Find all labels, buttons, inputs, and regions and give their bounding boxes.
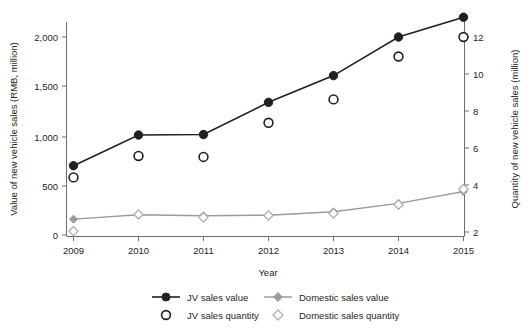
data-point[interactable] (264, 98, 272, 106)
y-axis-right-title: Quantity of new vehicle sales (million) (509, 50, 520, 209)
y-ticklabel-1500: 1,500 (34, 81, 58, 92)
x-ticklabel-2013: 2013 (323, 245, 344, 256)
data-point[interactable] (394, 52, 403, 61)
series-line (74, 17, 464, 166)
data-point[interactable] (264, 118, 273, 127)
data-point[interactable] (264, 211, 273, 220)
x-axis: 2009 2010 2011 2012 2013 2014 2015 Year (63, 237, 474, 279)
data-point[interactable] (69, 173, 78, 182)
data-point[interactable] (459, 33, 468, 42)
data-point[interactable] (459, 13, 467, 21)
legend-item-domestic-sales-quantity[interactable]: Domestic sales quantity (273, 310, 400, 321)
data-point[interactable] (199, 153, 208, 162)
legend-item-jv-sales-quantity[interactable]: JV sales quantity (162, 310, 259, 321)
x-ticklabel-2012: 2012 (258, 245, 279, 256)
x-axis-title: Year (258, 267, 277, 278)
y-ticklabel-2000: 2,000 (34, 32, 58, 43)
y-ticklabel-1000: 1,000 (34, 132, 58, 143)
data-point[interactable] (329, 95, 338, 104)
data-point[interactable] (69, 162, 77, 170)
y2-ticklabel-6: 6 (473, 143, 478, 154)
y2-ticklabel-12: 12 (473, 32, 484, 43)
data-point[interactable] (69, 226, 78, 235)
y2-ticklabel-2: 2 (473, 227, 478, 238)
x-ticklabel-2010: 2010 (128, 245, 149, 256)
filled-diamond-icon (274, 293, 283, 302)
y-ticklabel-0: 0 (53, 230, 58, 241)
legend-item-domestic-sales-value[interactable]: Domestic sales value (264, 292, 389, 303)
data-point[interactable] (199, 213, 208, 222)
y2-ticklabel-10: 10 (473, 69, 484, 80)
legend-label-jv-sales-quantity: JV sales quantity (187, 310, 259, 321)
x-ticklabel-2014: 2014 (388, 245, 409, 256)
series-jv-sales-value (69, 13, 467, 170)
chart-figure: 2,000 1,500 1,000 500 0 Value of new veh… (0, 0, 531, 333)
x-ticklabel-2011: 2011 (193, 245, 213, 256)
data-point[interactable] (134, 210, 143, 219)
chart-legend: JV sales value Domestic sales value JV s… (152, 292, 400, 321)
series-jv-sales-quantity (69, 33, 468, 182)
data-point[interactable] (394, 200, 403, 209)
legend-label-domestic-sales-value: Domestic sales value (299, 292, 389, 303)
open-circle-icon (162, 311, 171, 320)
y2-ticklabel-4: 4 (473, 180, 478, 191)
data-point[interactable] (70, 215, 78, 223)
legend-label-domestic-sales-quantity: Domestic sales quantity (299, 310, 400, 321)
data-point[interactable] (134, 152, 143, 161)
data-point[interactable] (394, 33, 402, 41)
y-axis-right: 12 10 8 6 4 2 Quantity of new vehicle sa… (465, 22, 521, 238)
y-axis-left: 2,000 1,500 1,000 500 0 Value of new veh… (8, 22, 67, 241)
data-point[interactable] (329, 71, 337, 79)
x-ticklabel-2015: 2015 (453, 245, 474, 256)
open-diamond-icon (273, 310, 283, 320)
series-domestic-sales-quantity (69, 185, 468, 236)
legend-label-jv-sales-value: JV sales value (187, 292, 248, 303)
data-point[interactable] (134, 131, 142, 139)
legend-item-jv-sales-value[interactable]: JV sales value (152, 292, 248, 303)
filled-circle-icon (162, 293, 170, 301)
chart-svg: 2,000 1,500 1,000 500 0 Value of new veh… (0, 0, 531, 333)
y-axis-left-title: Value of new vehicle sales (RMB, million… (8, 42, 19, 216)
x-ticklabel-2009: 2009 (63, 245, 84, 256)
plot-series-layer (69, 13, 468, 236)
y-ticklabel-500: 500 (42, 181, 58, 192)
data-point[interactable] (199, 130, 207, 138)
y2-ticklabel-8: 8 (473, 106, 478, 117)
